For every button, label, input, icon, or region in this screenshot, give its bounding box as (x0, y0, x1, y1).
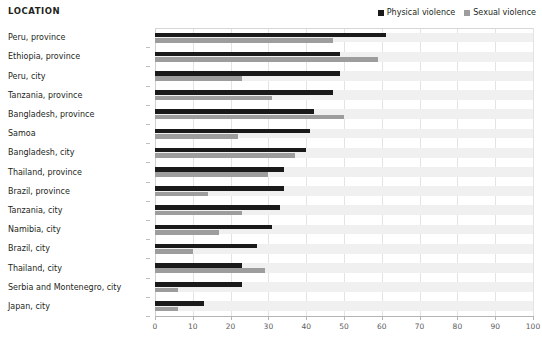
bar-row (155, 239, 533, 258)
bar-sexual-violence (155, 211, 242, 216)
bar-sexual-violence (155, 134, 238, 139)
bar-sexual-violence (155, 249, 193, 254)
bar-physical-violence (155, 225, 272, 230)
x-axis-tick-label: 0 (153, 322, 158, 331)
y-axis-tick (146, 182, 150, 183)
x-axis-tick-label: 90 (490, 322, 500, 331)
y-axis-tick (146, 143, 150, 144)
square-swatch-icon (464, 10, 470, 16)
y-axis-tick (146, 258, 150, 259)
y-axis-label: Samoa (8, 129, 36, 138)
y-axis-tick (146, 297, 150, 298)
bar-physical-violence (155, 52, 340, 57)
bar-sexual-violence (155, 288, 178, 293)
bar-chart: LOCATION Physical violence Sexual violen… (0, 0, 542, 347)
bar-physical-violence (155, 129, 310, 134)
bar-sexual-violence (155, 153, 295, 158)
bar-sexual-violence (155, 230, 219, 235)
bar-row (155, 278, 533, 297)
y-axis-tick (146, 105, 150, 106)
bar-row (155, 47, 533, 66)
y-axis-label: Thailand, city (8, 264, 62, 273)
y-axis-label: Japan, city (8, 302, 50, 311)
plot-area (155, 28, 533, 316)
bar-row (155, 162, 533, 181)
bar-row (155, 182, 533, 201)
bar-row (155, 105, 533, 124)
bar-row (155, 297, 533, 316)
bar-sexual-violence (155, 172, 268, 177)
square-swatch-icon (378, 10, 384, 16)
bar-physical-violence (155, 109, 314, 114)
bar-sexual-violence (155, 307, 178, 312)
bar-rows (155, 28, 533, 316)
bar-physical-violence (155, 186, 284, 191)
bar-sexual-violence (155, 115, 344, 120)
bar-sexual-violence (155, 38, 333, 43)
y-axis-label: Bangladesh, city (8, 148, 74, 157)
bar-row (155, 143, 533, 162)
x-axis-tick (495, 316, 496, 320)
x-axis-tick (155, 316, 156, 320)
x-axis-tick-label: 30 (264, 322, 274, 331)
bar-row (155, 258, 533, 277)
x-axis-tick (268, 316, 269, 320)
y-axis-tick (146, 278, 150, 279)
column-header-location: LOCATION (8, 6, 60, 16)
y-axis-tick (146, 220, 150, 221)
bar-sexual-violence (155, 76, 242, 81)
y-axis-tick (146, 66, 150, 67)
y-axis-tick (146, 86, 150, 87)
bar-sexual-violence (155, 57, 378, 62)
y-axis-label: Brazil, province (8, 187, 70, 196)
bar-sexual-violence (155, 268, 265, 273)
y-axis-tick (146, 239, 150, 240)
legend-item-sexual-violence: Sexual violence (464, 8, 536, 17)
y-axis-label: Bangladesh, province (8, 110, 94, 119)
legend-label-sexual-violence: Sexual violence (473, 8, 536, 17)
bar-physical-violence (155, 167, 284, 172)
bar-row (155, 124, 533, 143)
legend-label-physical-violence: Physical violence (387, 8, 455, 17)
legend-item-physical-violence: Physical violence (378, 8, 455, 17)
bar-physical-violence (155, 205, 280, 210)
bar-sexual-violence (155, 96, 272, 101)
y-axis-label: Tanzania, city (8, 206, 62, 215)
bar-row (155, 28, 533, 47)
bar-physical-violence (155, 148, 306, 153)
y-axis-label: Tanzania, province (8, 91, 82, 100)
x-axis-tick (382, 316, 383, 320)
bar-row (155, 66, 533, 85)
y-axis-tick (146, 201, 150, 202)
bar-physical-violence (155, 301, 204, 306)
y-axis-label: Peru, province (8, 33, 65, 42)
bar-physical-violence (155, 244, 257, 249)
y-axis-tick (146, 124, 150, 125)
y-axis-label: Peru, city (8, 72, 45, 81)
bar-physical-violence (155, 282, 242, 287)
x-axis-tick-label: 20 (226, 322, 236, 331)
x-axis-tick (344, 316, 345, 320)
x-axis-tick-label: 50 (339, 322, 349, 331)
x-axis-tick-label: 80 (453, 322, 463, 331)
x-axis-tick-label: 10 (188, 322, 198, 331)
bar-physical-violence (155, 33, 386, 38)
x-axis-tick (231, 316, 232, 320)
bar-physical-violence (155, 71, 340, 76)
y-axis-tick (146, 316, 150, 317)
bar-row (155, 86, 533, 105)
x-axis-tick (533, 316, 534, 320)
bar-row (155, 201, 533, 220)
y-axis-label: Namibia, city (8, 225, 61, 234)
y-axis-category-labels: Peru, provinceEthiopia, provincePeru, ci… (0, 28, 150, 316)
x-axis-tick (306, 316, 307, 320)
x-axis-tick-label: 70 (415, 322, 425, 331)
chart-legend: Physical violence Sexual violence (378, 8, 536, 17)
x-axis-tick-label: 60 (377, 322, 387, 331)
y-axis-label: Thailand, province (8, 168, 82, 177)
y-axis-label: Ethiopia, province (8, 52, 80, 61)
y-axis-tick (146, 47, 150, 48)
bar-sexual-violence (155, 192, 208, 197)
bar-row (155, 220, 533, 239)
gridline (533, 28, 534, 316)
